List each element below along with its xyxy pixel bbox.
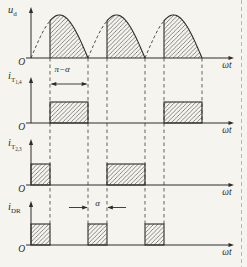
conduction-pulse [31, 164, 50, 185]
x-axis-label: ωt [222, 187, 232, 197]
conduction-pulse [88, 224, 107, 245]
waveform-canvas: OωtudOωtiT1,4π−αOωtiT2,3OωtiDRα [0, 0, 247, 267]
conduction-pulse [107, 164, 145, 185]
conduction-pulse [50, 102, 88, 123]
conduction-pulse [31, 224, 50, 245]
x-axis-label: ωt [222, 125, 232, 135]
conduction-pulse [145, 224, 164, 245]
origin-label: O [18, 244, 25, 254]
x-axis-label: ωt [222, 60, 232, 70]
origin-label: O [18, 184, 25, 194]
annotation-alpha: α [95, 198, 100, 208]
origin-label: O [18, 122, 25, 132]
rectifier-waveform-figure: OωtudOωtiT1,4π−αOωtiT2,3OωtiDRα [0, 0, 247, 267]
conduction-pulse [164, 102, 202, 123]
annotation-pi-minus-alpha: π−α [55, 64, 71, 74]
origin-label: O [18, 57, 25, 67]
x-axis-label: ωt [222, 247, 232, 257]
